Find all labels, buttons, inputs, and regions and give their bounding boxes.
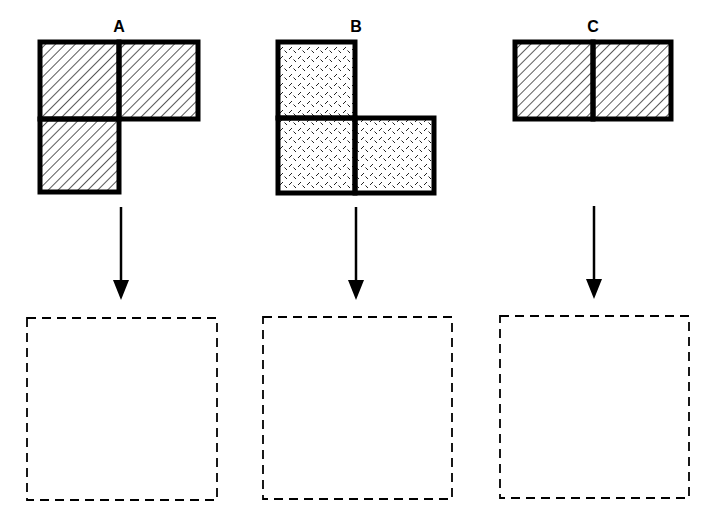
figure-b-cell bbox=[278, 118, 355, 193]
figure-b-shape bbox=[278, 42, 434, 193]
figure-a-cell bbox=[40, 119, 119, 192]
arrow-down-icon bbox=[113, 207, 129, 300]
arrow-down-icon bbox=[586, 206, 602, 299]
figure-b-cell bbox=[278, 42, 355, 118]
figure-a-cell bbox=[119, 42, 198, 119]
diagram-canvas: A B C bbox=[0, 0, 713, 527]
answer-box-c[interactable] bbox=[500, 316, 689, 498]
figure-a-cell bbox=[40, 42, 119, 119]
figure-label-c: C bbox=[587, 18, 599, 35]
figure-b-cell bbox=[355, 118, 434, 193]
figure-c-cell bbox=[593, 42, 671, 119]
figure-c-cell bbox=[515, 42, 593, 119]
answer-box-b[interactable] bbox=[263, 317, 452, 499]
answer-box-a[interactable] bbox=[27, 318, 217, 500]
figure-label-a: A bbox=[113, 18, 125, 35]
figure-a-shape bbox=[40, 42, 198, 192]
figure-label-b: B bbox=[350, 18, 362, 35]
figure-c-shape bbox=[515, 42, 671, 119]
arrow-down-icon bbox=[348, 207, 364, 300]
